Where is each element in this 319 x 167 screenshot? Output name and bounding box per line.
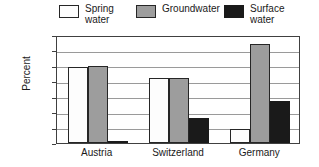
legend-label-surface-water: Surface water	[250, 4, 284, 25]
legend-swatch-groundwater	[136, 5, 156, 18]
legend-label-spring-water: Spring water	[85, 4, 114, 25]
x-tick-label: Germany	[219, 147, 300, 158]
plot-area	[56, 36, 300, 144]
legend-label-groundwater: Groundwater	[162, 4, 220, 15]
legend-swatch-surface-water	[224, 5, 244, 18]
bar	[189, 118, 209, 143]
bar	[149, 78, 169, 143]
legend-swatch-spring-water	[59, 5, 79, 18]
x-tick-label: Switzerland	[137, 147, 218, 158]
bar	[169, 78, 189, 143]
x-tick-label: Austria	[56, 147, 137, 158]
bar	[88, 66, 108, 143]
bar	[230, 129, 250, 143]
y-tick-mark	[52, 144, 56, 145]
bar	[250, 44, 270, 143]
chart-legend: Spring water Groundwater Surface water	[0, 4, 319, 32]
bar-chart: Spring water Groundwater Surface water P…	[0, 0, 319, 167]
y-axis-title: Percent	[21, 44, 32, 104]
bar	[68, 67, 88, 143]
bar	[270, 101, 290, 143]
legend-item-surface-water: Surface water	[224, 4, 284, 25]
legend-item-spring-water: Spring water	[59, 4, 114, 25]
legend-item-groundwater: Groundwater	[136, 4, 220, 18]
bar	[108, 141, 128, 143]
